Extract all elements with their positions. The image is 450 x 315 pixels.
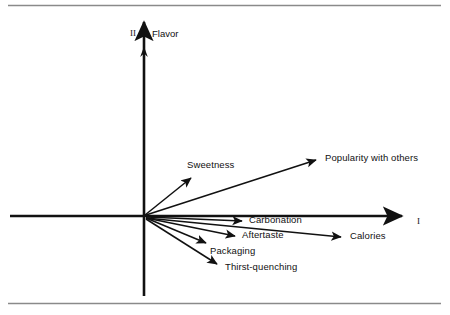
vector-label-sweetness: Sweetness <box>187 159 234 170</box>
axis-label-one: I <box>417 216 420 227</box>
vector-label-aftertaste: Aftertaste <box>242 229 284 240</box>
vector-sweetness <box>145 178 191 215</box>
vector-label-calories: Calories <box>350 230 386 241</box>
perceptual-map-figure: II Flavor I Sweetness Popularity with ot… <box>0 0 450 315</box>
vector-packaging <box>146 218 206 243</box>
vector-label-popularity-with-others: Popularity with others <box>325 152 418 163</box>
vector-label-packaging: Packaging <box>210 245 255 256</box>
vector-label-thirst-quenching: Thirst-quenching <box>225 261 297 272</box>
axis-label-two: II <box>130 28 136 39</box>
vector-label-carbonation: Carbonation <box>249 214 302 225</box>
axis-title-flavor: Flavor <box>152 28 178 39</box>
